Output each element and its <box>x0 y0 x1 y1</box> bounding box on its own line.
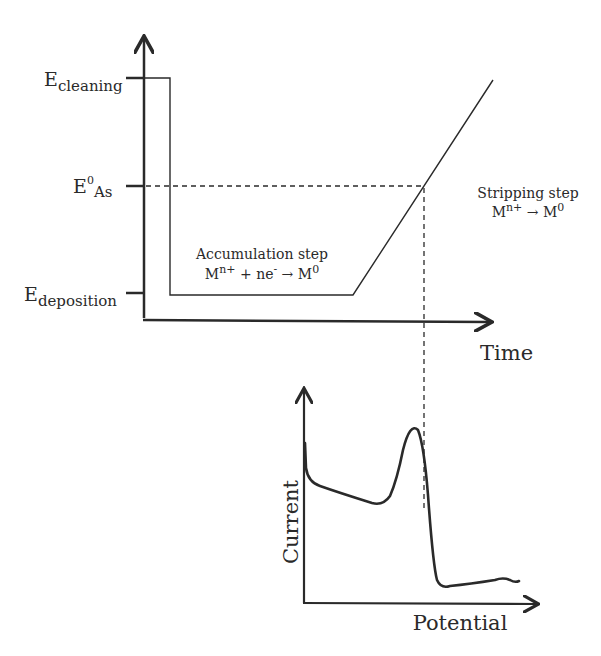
stripping-reaction: Mn+ → M0 <box>492 201 565 220</box>
voltammogram-plot: Current Potential <box>279 390 537 635</box>
potential-time-plot: Ecleaning E0As Edeposition Accumulation … <box>24 38 579 510</box>
label-e-cleaning: Ecleaning <box>44 68 123 95</box>
label-current: Current <box>279 479 303 564</box>
label-potential: Potential <box>413 611 508 635</box>
bottom-x-axis <box>303 603 537 604</box>
accumulation-step-title: Accumulation step <box>195 246 328 262</box>
label-e0-as: E0As <box>73 174 112 201</box>
accumulation-reaction: Mn+ + ne- → M0 <box>205 263 319 282</box>
asv-diagram: Ecleaning E0As Edeposition Accumulation … <box>0 0 601 656</box>
stripping-step-title: Stripping step <box>477 185 578 201</box>
label-e-deposition: Edeposition <box>24 283 117 310</box>
top-x-axis <box>143 320 490 322</box>
stripping-peak-curve <box>305 428 519 587</box>
label-time: Time <box>480 341 533 365</box>
